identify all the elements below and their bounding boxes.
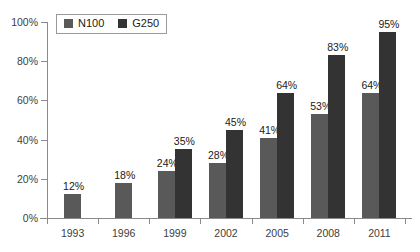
legend-swatch-g250 (118, 19, 127, 28)
bar-n100-1996 (115, 183, 132, 218)
bar-value-label: 12% (63, 181, 84, 192)
y-axis-tick-label: 40% (0, 135, 38, 146)
bar-chart: 0%20%40%60%80%100% 199319961999200220052… (0, 0, 420, 252)
bar-g250-2008 (328, 55, 345, 218)
bar-n100-2002 (209, 163, 226, 218)
plot-area: 12%18%24%35%28%45%41%64%53%83%64%95% (47, 22, 405, 218)
y-axis-tick-label: 80% (0, 56, 38, 67)
bar-g250-1999 (175, 149, 192, 218)
legend-label-n100: N100 (78, 18, 104, 29)
y-axis-tick-label: 60% (0, 95, 38, 106)
bar-n100-1999 (158, 171, 175, 218)
bar-value-label: 95% (378, 19, 399, 30)
bar-g250-2002 (226, 130, 243, 218)
bar-value-label: 45% (225, 117, 246, 128)
x-axis-tick (252, 219, 253, 224)
bar-n100-2008 (311, 114, 328, 218)
bar-n100-2011 (362, 93, 379, 218)
x-axis-tick (354, 219, 355, 224)
legend-label-g250: G250 (132, 18, 159, 29)
bar-n100-1993 (64, 194, 81, 218)
x-axis-tick (47, 219, 48, 224)
bar-value-label: 83% (327, 42, 348, 53)
bar-g250-2011 (379, 32, 396, 218)
bar-n100-2005 (260, 138, 277, 218)
bar-value-label: 35% (174, 136, 195, 147)
y-axis-tick-label: 0% (0, 213, 38, 224)
x-axis-tick (200, 219, 201, 224)
legend: N100 G250 (56, 14, 167, 34)
legend-swatch-n100 (64, 19, 73, 28)
x-axis-tick-label: 2011 (349, 228, 409, 239)
y-axis-tick-label: 20% (0, 174, 38, 185)
legend-entry-n100: N100 (64, 18, 104, 29)
y-axis-tick-label: 100% (0, 17, 38, 28)
bar-value-label: 18% (114, 170, 135, 181)
x-axis-tick (98, 219, 99, 224)
legend-entry-g250: G250 (118, 18, 159, 29)
bar-value-label: 64% (276, 80, 297, 91)
bar-g250-2005 (277, 93, 294, 218)
x-axis-tick (303, 219, 304, 224)
x-axis-line (40, 218, 412, 219)
x-axis-tick (405, 219, 406, 224)
x-axis-tick (149, 219, 150, 224)
